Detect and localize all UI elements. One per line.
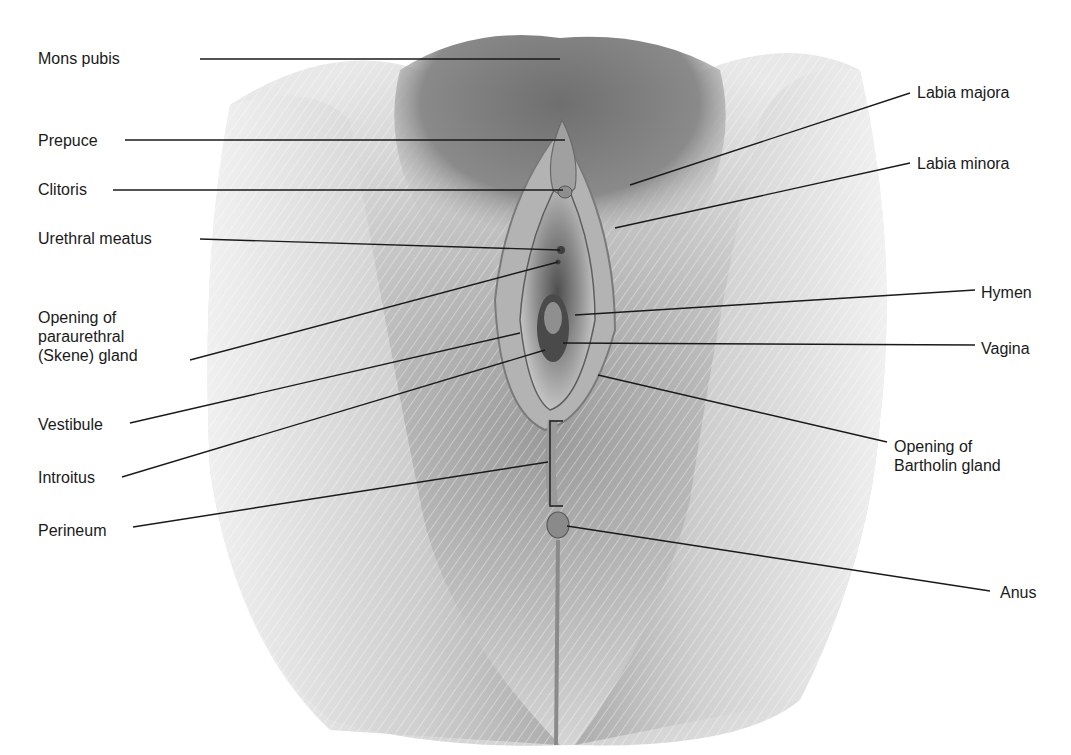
label-labia-minora: Labia minora (917, 154, 1010, 173)
anatomy-figure: Mons pubisPrepuceClitorisUrethral meatus… (0, 0, 1071, 755)
label-anus: Anus (1000, 583, 1036, 602)
label-perineum: Perineum (38, 521, 106, 540)
label-clitoris: Clitoris (38, 180, 87, 199)
genitalia-illustration (0, 0, 1071, 755)
label-urethral-meatus: Urethral meatus (38, 229, 152, 248)
label-labia-majora: Labia majora (917, 83, 1010, 102)
label-vagina: Vagina (981, 339, 1030, 358)
label-prepuce: Prepuce (38, 131, 98, 150)
label-introitus: Introitus (38, 468, 95, 487)
label-skene-gland: Opening of paraurethral (Skene) gland (38, 308, 138, 365)
label-vestibule: Vestibule (38, 415, 103, 434)
label-hymen: Hymen (981, 283, 1032, 302)
label-mons-pubis: Mons pubis (38, 49, 120, 68)
label-bartholin-gland: Opening of Bartholin gland (894, 437, 1001, 475)
